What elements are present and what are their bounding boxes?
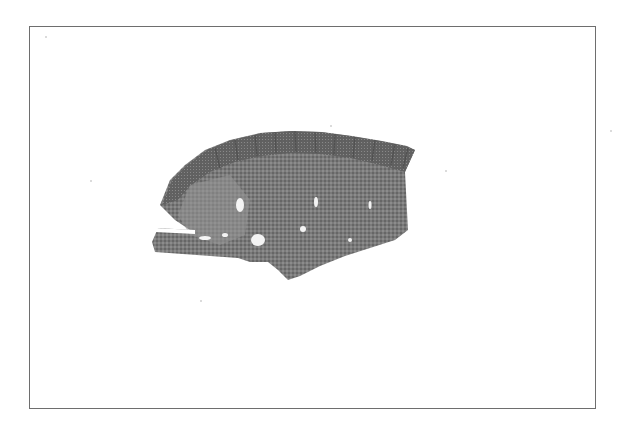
background-speck [330, 125, 332, 127]
background-speck [445, 170, 447, 172]
tissue-section [0, 0, 624, 430]
background-speck [90, 180, 92, 182]
background-speck [610, 130, 612, 132]
background-speck [45, 36, 47, 38]
background-speck [200, 300, 202, 302]
